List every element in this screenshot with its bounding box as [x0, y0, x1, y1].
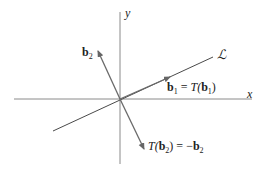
vector-b2	[98, 51, 120, 99]
vector-b1	[120, 77, 170, 99]
b1-equation-label: b1 = T(b1)	[167, 81, 216, 96]
y-axis-label: y	[125, 7, 130, 19]
b2-label: b2	[82, 46, 93, 61]
line-L-label: ℒ	[217, 48, 226, 61]
reflection-diagram	[0, 0, 262, 177]
T-b2-equation-label: T(b2) = −b2	[148, 140, 204, 155]
vector-T-b2	[120, 99, 144, 149]
x-axis-label: x	[247, 88, 252, 100]
